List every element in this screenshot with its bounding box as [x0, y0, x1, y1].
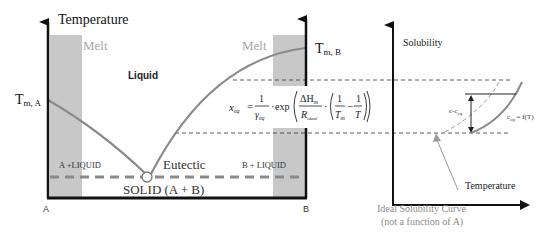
eq-frac4-num: 1 — [356, 93, 361, 104]
supersat-main: c-c — [449, 107, 458, 115]
axis-end-a: A — [43, 204, 49, 214]
eq-r: R — [300, 109, 307, 120]
eq-frac3-num: 1 — [337, 93, 342, 104]
solubility-curve — [471, 82, 522, 133]
eq-dot-2: · — [324, 100, 328, 112]
eq-lhs-sub: eq — [234, 108, 240, 114]
supersaturation-arrow-up — [468, 95, 474, 101]
solid-label: SOLID (A + B) — [123, 182, 204, 197]
annotation-pointer — [437, 140, 458, 190]
solubility-plot: Solubility Temperature c-ceq ceq = f(T) — [392, 25, 534, 210]
a-liquid-label: A +LIQUID — [59, 160, 101, 170]
eq-delta-h: ΔH — [300, 93, 314, 104]
b-liquid-label: B + LIQUID — [242, 160, 286, 170]
eutectic-label: Eutectic — [163, 157, 206, 172]
tm-b-sub: m, B — [324, 47, 342, 57]
liquid-label: Liquid — [128, 70, 158, 81]
eq-exp: exp — [275, 101, 289, 112]
eutectic-point — [142, 172, 152, 182]
eq-gamma-sub: eq — [259, 115, 265, 121]
eq-r-sub: ideal — [307, 116, 318, 121]
melt-label-right: Melt — [242, 38, 267, 53]
solubility-curve-label: ceq = f(T) — [507, 113, 534, 122]
melt-label-left: Melt — [83, 38, 108, 53]
ideal-solubility-annotation: Ideal Solubility Curve (not a function o… — [377, 133, 466, 228]
annotation-line-2: (not a function of A) — [381, 216, 463, 228]
annotation-line-1: Ideal Solubility Curve — [377, 203, 466, 214]
supersaturation-label: c-ceq — [449, 107, 463, 116]
phase-y-axis-label: Temperature — [58, 12, 129, 27]
eq-minus: − — [347, 100, 353, 112]
axis-end-b: B — [303, 204, 309, 214]
solubility-y-label: Solubility — [403, 37, 442, 48]
eq-delta-h-sub: m — [314, 99, 319, 105]
tm-a-label: Tm, A — [15, 92, 42, 108]
tm-a-sub: m, A — [24, 98, 42, 108]
curve-label-rest: = f(T) — [515, 113, 534, 121]
solubility-x-arrowhead — [520, 200, 530, 210]
tm-b-label: Tm, B — [315, 41, 341, 57]
metastable-curve — [445, 80, 500, 132]
annotation-arrowhead — [433, 133, 441, 142]
diagram-canvas: Temperature Melt Melt Liquid Tm, A Tm, B… — [0, 0, 555, 237]
eq-paren-close-inner — [364, 93, 367, 120]
solubility-x-label: Temperature — [465, 180, 516, 191]
ideal-solubility-equation: xeq = 1 γeq · exp ΔHm Rideal · 1 Tm − 1 … — [228, 86, 370, 128]
melt-band-left — [50, 35, 82, 198]
eq-frac1-num: 1 — [259, 93, 264, 104]
eq-equals: = — [247, 100, 253, 112]
supersat-sub: eq — [458, 111, 463, 116]
eq-t-m-sub: m — [341, 115, 346, 121]
eq-paren-close-outer — [367, 91, 370, 122]
